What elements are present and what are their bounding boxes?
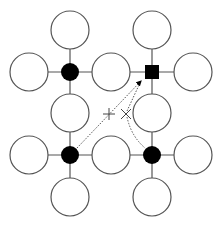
- hub-top-left: [61, 63, 79, 81]
- hub-bottom-left: [61, 146, 79, 164]
- node: [174, 136, 212, 174]
- node: [10, 53, 48, 91]
- node: [51, 11, 89, 49]
- hub-top-right-square: [145, 65, 159, 79]
- node: [92, 53, 130, 91]
- node: [51, 178, 89, 216]
- node: [133, 11, 171, 49]
- hub-bottom-right: [143, 146, 161, 164]
- node: [51, 94, 89, 132]
- node: [133, 178, 171, 216]
- node: [92, 136, 130, 174]
- grid-diagram: [0, 0, 221, 227]
- plus-marker-icon: [103, 108, 115, 120]
- node: [174, 53, 212, 91]
- node: [10, 136, 48, 174]
- cross-marker-icon: [121, 109, 131, 119]
- node: [133, 94, 171, 132]
